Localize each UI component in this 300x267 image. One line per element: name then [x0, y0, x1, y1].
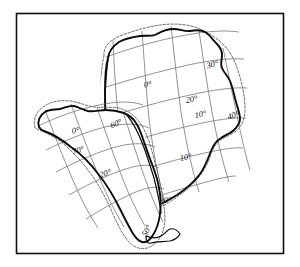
africa-grid-label-10-lower: 10°: [179, 151, 193, 163]
africa-grid-label-30-south: 30°: [158, 194, 173, 206]
africa-grid-label-20: 20°: [185, 93, 199, 105]
continental-drift-map: 0° 30° 20° 10° 40° 10° 30° 0° 60° 70° 20…: [0, 0, 300, 267]
figure-root: 0° 30° 20° 10° 40° 10° 30° 0° 60° 70° 20…: [0, 0, 300, 267]
